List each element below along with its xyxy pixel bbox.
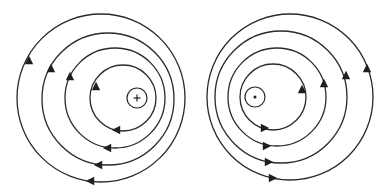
arrow-left-icon [86,177,94,185]
arrow-left-icon [112,126,120,134]
field-line-4 [207,14,373,180]
panel-current-out-of-page [207,14,373,182]
field-line-2 [65,48,165,148]
field-line-3 [215,31,347,163]
field-line-2 [228,48,326,146]
current-into-page-icon [134,95,141,102]
arrow-up-icon [363,64,371,72]
arrow-up-icon [66,72,74,80]
arrow-left-icon [103,144,111,152]
current-out-of-page-icon [254,96,257,99]
diagram-canvas [0,0,391,194]
panel-current-into-page [17,14,185,185]
field-line-3 [42,33,174,165]
field-line-1 [90,65,156,131]
arrow-left-icon [94,161,102,169]
arrow-right-icon [265,158,273,166]
arrow-right-icon [261,124,269,132]
arrow-right-icon [263,142,271,150]
arrow-up-icon [47,64,55,72]
arrow-right-icon [269,174,277,182]
field-lines-figure: Magnetic field lines around two current-… [0,0,391,194]
field-line-1 [240,64,306,130]
arrow-up-icon [320,79,328,87]
